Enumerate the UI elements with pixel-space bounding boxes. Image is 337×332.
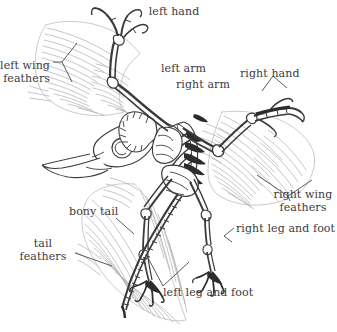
label-left-hand: left hand: [145, 6, 203, 19]
label-left-leg-and-foot: left leg and foot: [163, 287, 253, 300]
leader-left-wing-feathers-upper: [53, 43, 77, 62]
archaeopteryx-skeleton-figure: left hand left wing feathers left arm ri…: [0, 0, 337, 332]
label-tail-feathers: tail feathers: [14, 238, 72, 263]
label-left-arm: left arm: [161, 63, 206, 76]
leader-tail-feathers: [75, 253, 112, 266]
label-right-leg-and-foot: right leg and foot: [236, 223, 335, 236]
leader-right-leg-and-foot: [224, 228, 234, 242]
leader-bony-tail: [116, 218, 134, 234]
label-right-arm: right arm: [176, 79, 230, 92]
label-right-wing-feathers: right wing feathers: [272, 189, 334, 214]
leader-lines-layer: [0, 0, 337, 332]
label-left-wing-feathers: left wing feathers: [0, 60, 50, 85]
leader-left-leg-and-foot-b: [147, 256, 163, 286]
label-bony-tail: bony tail: [69, 206, 118, 219]
label-right-hand: right hand: [240, 68, 300, 81]
leader-left-wing-feathers-lower: [62, 62, 72, 82]
leader-left-leg-and-foot-a: [163, 262, 189, 286]
